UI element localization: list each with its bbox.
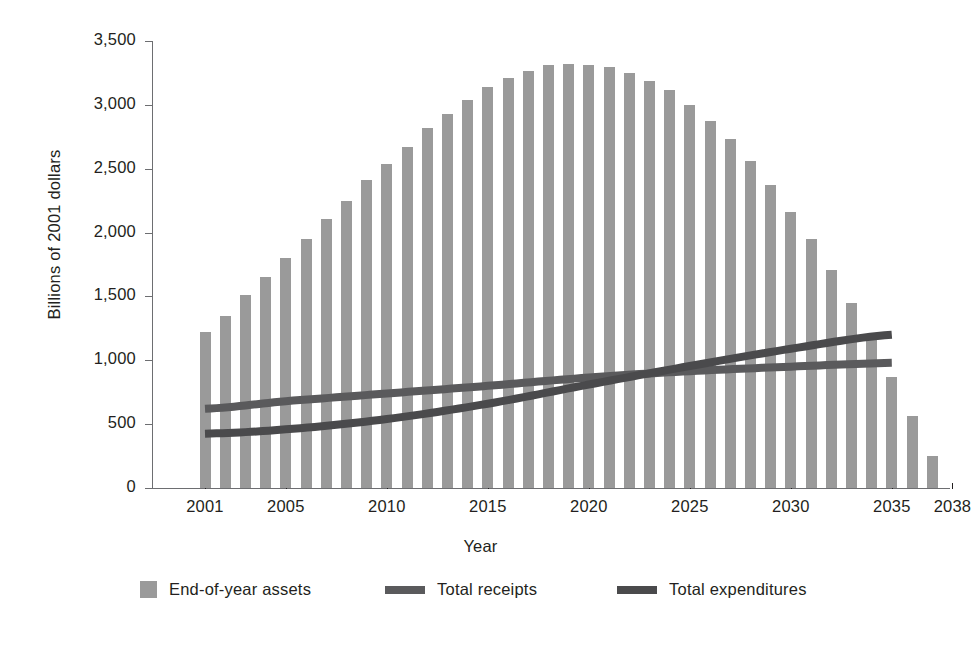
x-tick-label: 2035 bbox=[873, 497, 911, 516]
y-tick-mark bbox=[145, 424, 152, 425]
bar bbox=[927, 456, 938, 488]
x-tick-label: 2010 bbox=[368, 497, 406, 516]
y-tick-label: 0 bbox=[0, 477, 136, 496]
x-tick-label: 2038 bbox=[934, 497, 971, 516]
y-tick-mark bbox=[145, 296, 152, 297]
x-tick-label: 2030 bbox=[772, 497, 810, 516]
y-tick-label: 2,500 bbox=[0, 158, 136, 177]
legend-line-icon-receipts bbox=[385, 586, 425, 594]
legend-item-end-of-year-assets: End-of-year assets bbox=[140, 580, 311, 599]
y-tick-label: 500 bbox=[0, 413, 136, 432]
y-axis-title: Billions of 2001 dollars bbox=[45, 85, 64, 385]
x-tick-label: 2020 bbox=[570, 497, 608, 516]
x-axis-title: Year bbox=[0, 537, 961, 556]
y-tick-label: 2,000 bbox=[0, 222, 136, 241]
legend-swatch-icon-assets bbox=[140, 581, 157, 598]
y-tick-mark bbox=[145, 41, 152, 42]
y-tick-mark bbox=[145, 488, 152, 489]
legend-item-total-receipts: Total receipts bbox=[385, 580, 537, 599]
y-tick-label: 1,000 bbox=[0, 349, 136, 368]
legend-label-expenditures: Total expenditures bbox=[669, 580, 807, 599]
legend-label-assets: End-of-year assets bbox=[169, 580, 311, 599]
chart-legend: End-of-year assets Total receipts Total … bbox=[140, 580, 807, 599]
legend-label-receipts: Total receipts bbox=[437, 580, 537, 599]
x-tick-label: 2025 bbox=[671, 497, 709, 516]
y-tick-label: 3,000 bbox=[0, 94, 136, 113]
y-tick-mark bbox=[145, 169, 152, 170]
x-tick-label: 2005 bbox=[267, 497, 305, 516]
x-tick-mark bbox=[952, 483, 953, 489]
y-tick-mark bbox=[145, 233, 152, 234]
line-series-group bbox=[152, 41, 912, 488]
x-axis-line bbox=[152, 488, 950, 489]
legend-line-icon-expenditures bbox=[617, 586, 657, 594]
y-tick-label: 1,500 bbox=[0, 285, 136, 304]
line-total-receipts bbox=[205, 363, 892, 409]
y-tick-mark bbox=[145, 105, 152, 106]
y-tick-mark bbox=[145, 360, 152, 361]
y-tick-label: 3,500 bbox=[0, 30, 136, 49]
x-tick-label: 2015 bbox=[469, 497, 507, 516]
plot-area bbox=[152, 41, 912, 488]
x-tick-label: 2001 bbox=[186, 497, 224, 516]
legend-item-total-expenditures: Total expenditures bbox=[617, 580, 807, 599]
